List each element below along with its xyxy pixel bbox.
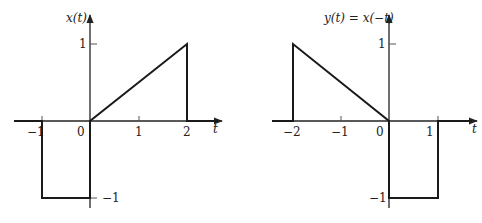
diagram-canvas: −1 0 1 2 1 −1 t x(t) −2 −1 0 1 1 −1 t y(… (0, 0, 482, 223)
y-tick-label: −1 (369, 191, 387, 205)
x-tick-label: −1 (331, 125, 349, 139)
x-tick-label: 1 (135, 125, 143, 139)
x-ticks (293, 116, 438, 121)
x-axis-label: t (472, 122, 477, 136)
x-ticks (42, 116, 187, 121)
x-tick-label: 0 (376, 125, 384, 139)
x-axis-label: t (213, 122, 218, 136)
y-axis-label: y(t) = x(−t) (323, 11, 394, 25)
plot-y-of-t: −2 −1 0 1 1 −1 t y(t) = x(−t) (272, 11, 477, 208)
y-tick-label: 1 (378, 37, 386, 51)
y-axis-label: x(t) (66, 11, 87, 25)
x-tick-label: 1 (426, 125, 434, 139)
y-tick-label: −1 (102, 191, 120, 205)
x-tick-label: 0 (77, 125, 85, 139)
x-tick-label: −2 (283, 125, 301, 139)
x-tick-label: 2 (183, 125, 191, 139)
plot-x-of-t: −1 0 1 2 1 −1 t x(t) (14, 11, 222, 208)
y-tick-label: 1 (79, 37, 87, 51)
